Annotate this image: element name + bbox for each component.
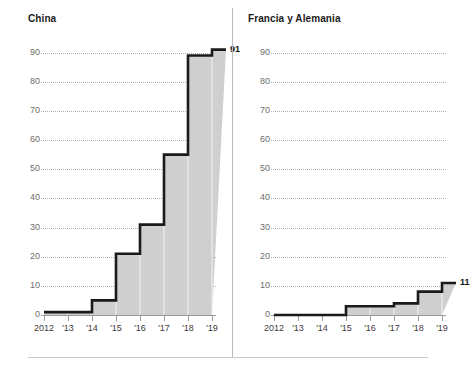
- y-tick-label-60: 60: [248, 134, 270, 144]
- y-tick-label-40: 40: [18, 192, 40, 202]
- y-tick-label-30: 30: [248, 222, 270, 232]
- y-tick-label-80: 80: [18, 76, 40, 86]
- y-tick-label-30: 30: [18, 222, 40, 232]
- chart-panel-china: China 0102030405060708090 2012'13'14'15'…: [0, 0, 232, 345]
- y-tick-label-0: 0: [248, 309, 270, 319]
- y-tick-label-70: 70: [248, 105, 270, 115]
- panel-divider-vertical: [232, 8, 233, 358]
- y-tick-label-50: 50: [248, 163, 270, 173]
- y-tick-label-90: 90: [18, 47, 40, 57]
- y-tick-label-0: 0: [18, 309, 40, 319]
- y-tick-label-50: 50: [18, 163, 40, 173]
- area-fill: [274, 283, 456, 315]
- end-value-label-francia-alemania: 11: [460, 277, 470, 287]
- series-area-francia-alemania: [274, 38, 454, 328]
- y-tick-label-40: 40: [248, 192, 270, 202]
- y-tick-label-20: 20: [248, 251, 270, 261]
- page-title-francia-alemania: Francia y Alemania: [248, 13, 341, 24]
- y-tick-label-60: 60: [18, 134, 40, 144]
- series-area-china: [44, 38, 224, 328]
- page-title-china: China: [28, 13, 56, 24]
- y-tick-label-70: 70: [18, 105, 40, 115]
- y-tick-label-10: 10: [248, 280, 270, 290]
- y-tick-label-10: 10: [18, 280, 40, 290]
- area-fill: [44, 50, 226, 315]
- y-tick-label-20: 20: [18, 251, 40, 261]
- y-tick-label-80: 80: [248, 76, 270, 86]
- footer-rule: [28, 357, 428, 358]
- y-tick-label-90: 90: [248, 47, 270, 57]
- chart-panel-francia-alemania: Francia y Alemania 0102030405060708090 2…: [232, 0, 452, 345]
